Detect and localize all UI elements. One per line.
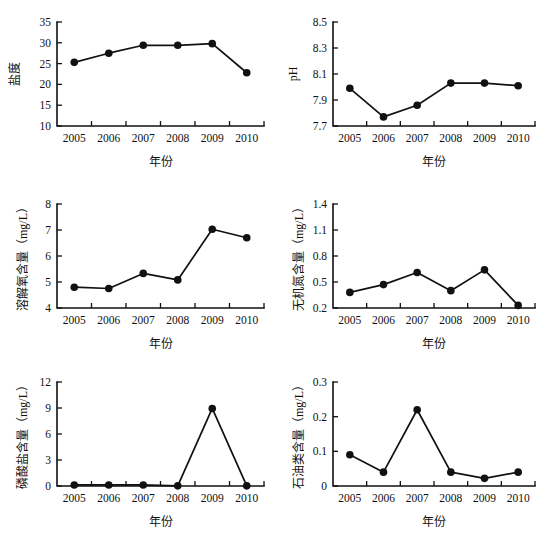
- y-tick-label: 8: [45, 198, 51, 210]
- x-tick-label-2009: 2009: [201, 314, 224, 326]
- x-tick-label-2010: 2010: [507, 492, 530, 504]
- chart-panel-dissolved-oxygen: 45678200520062007200820092010年份溶解氧含量（mg/…: [0, 178, 276, 358]
- x-tick-label-2005: 2005: [338, 314, 361, 326]
- data-markers-petroleum: [346, 406, 522, 482]
- y-tick-label: 35: [40, 16, 52, 28]
- y-tick-label: 7.9: [313, 94, 328, 106]
- y-tick-label: 9: [45, 402, 51, 414]
- data-point-2008: [174, 482, 182, 490]
- data-point-2008: [447, 79, 455, 87]
- data-point-2007: [139, 481, 147, 489]
- y-axis-title-inorganic-nitrogen: 无机氮含量（mg/L）: [291, 201, 306, 311]
- y-tick-label: 5: [45, 276, 51, 288]
- x-tick-label-2007: 2007: [132, 492, 155, 504]
- x-tick-label-2006: 2006: [97, 132, 120, 144]
- x-tick-label-2010: 2010: [235, 132, 258, 144]
- x-tick-label-2009: 2009: [473, 314, 496, 326]
- data-point-2007: [413, 269, 421, 277]
- y-axis-title-petroleum: 石油类含量（mg/L）: [291, 379, 306, 489]
- y-tick-label: 0.3: [313, 376, 328, 388]
- data-point-2010: [514, 302, 522, 310]
- data-point-2010: [514, 82, 522, 90]
- x-axis-title-petroleum: 年份: [422, 515, 446, 529]
- x-tick-label-2009: 2009: [473, 492, 496, 504]
- series-line-petroleum: [350, 410, 518, 479]
- x-tick-label-2006: 2006: [372, 314, 395, 326]
- x-tick-label-2005: 2005: [63, 492, 86, 504]
- y-axis-ticks-dissolved-oxygen: 45678: [45, 198, 62, 314]
- y-axis-title-dissolved-oxygen: 溶解氧含量（mg/L）: [15, 201, 30, 311]
- x-tick-label-2007: 2007: [132, 314, 155, 326]
- data-point-2005: [346, 451, 354, 459]
- y-tick-label: 12: [40, 376, 52, 388]
- series-line-inorganic-nitrogen: [350, 270, 518, 306]
- x-tick-label-2008: 2008: [166, 314, 189, 326]
- data-point-2006: [380, 468, 388, 476]
- data-point-2010: [243, 69, 251, 77]
- data-point-2005: [346, 289, 354, 297]
- x-axis-title-dissolved-oxygen: 年份: [149, 337, 173, 351]
- x-axis-ticks-dissolved-oxygen: 200520062007200820092010: [63, 303, 264, 326]
- data-point-2008: [174, 41, 182, 49]
- y-axis-ticks-inorganic-nitrogen: 0.20.50.81.11.4: [313, 198, 338, 314]
- x-axis-title-salinity: 年份: [149, 155, 173, 169]
- data-point-2007: [139, 41, 147, 49]
- y-tick-label: 0.2: [313, 302, 328, 314]
- chart-panel-inorganic-nitrogen: 0.20.50.81.11.4200520062007200820092010年…: [276, 178, 552, 358]
- series-line-salinity: [74, 44, 247, 73]
- data-point-2008: [174, 276, 182, 284]
- data-point-2008: [447, 287, 455, 295]
- y-tick-label: 4: [45, 302, 51, 314]
- data-point-2005: [70, 481, 78, 489]
- data-point-2009: [481, 79, 489, 87]
- data-point-2006: [380, 281, 388, 289]
- y-tick-label: 8.1: [313, 68, 328, 80]
- y-tick-label: 8.5: [313, 16, 328, 28]
- x-tick-label-2007: 2007: [406, 132, 429, 144]
- x-tick-label-2007: 2007: [406, 314, 429, 326]
- x-tick-label-2008: 2008: [439, 492, 462, 504]
- x-tick-label-2008: 2008: [439, 132, 462, 144]
- y-tick-label: 10: [40, 120, 52, 132]
- y-tick-label: 0.2: [313, 411, 328, 423]
- y-tick-label: 0.1: [313, 445, 328, 457]
- data-point-2010: [243, 234, 251, 242]
- y-tick-label: 0.5: [313, 276, 328, 288]
- chart-panel-petroleum: 00.10.20.3200520062007200820092010年份石油类含…: [276, 358, 552, 535]
- y-tick-label: 0: [321, 480, 327, 492]
- y-axis-title-salinity: 盐度: [7, 62, 22, 86]
- y-tick-label: 7.7: [313, 120, 328, 132]
- x-tick-label-2008: 2008: [166, 492, 189, 504]
- data-markers-dissolved-oxygen: [70, 225, 250, 292]
- x-axis-ticks-ph: 200520062007200820092010: [338, 121, 535, 144]
- chart-panel-salinity: 101520253035200520062007200820092010年份盐度: [0, 0, 276, 178]
- data-point-2009: [481, 475, 489, 483]
- data-markers-ph: [346, 79, 522, 120]
- data-point-2009: [208, 405, 216, 413]
- x-tick-label-2006: 2006: [97, 314, 120, 326]
- x-tick-label-2010: 2010: [235, 492, 258, 504]
- x-tick-label-2009: 2009: [201, 132, 224, 144]
- data-point-2007: [139, 270, 147, 278]
- x-axis-title-phosphate: 年份: [149, 515, 173, 529]
- figure-grid: 101520253035200520062007200820092010年份盐度…: [0, 0, 552, 535]
- y-tick-label: 3: [45, 454, 51, 466]
- data-point-2008: [447, 468, 455, 476]
- x-axis-ticks-inorganic-nitrogen: 200520062007200820092010: [338, 303, 535, 326]
- x-tick-label-2010: 2010: [507, 314, 530, 326]
- x-tick-label-2010: 2010: [507, 132, 530, 144]
- x-tick-label-2005: 2005: [338, 132, 361, 144]
- y-tick-label: 6: [45, 428, 51, 440]
- y-tick-label: 15: [40, 99, 52, 111]
- x-tick-label-2009: 2009: [473, 132, 496, 144]
- x-tick-label-2006: 2006: [97, 492, 120, 504]
- y-tick-label: 25: [40, 58, 52, 70]
- x-axis-ticks-petroleum: 200520062007200820092010: [338, 481, 535, 504]
- axis-spines-phosphate: [57, 382, 264, 486]
- x-tick-label-2005: 2005: [63, 314, 86, 326]
- axis-spines-dissolved-oxygen: [57, 204, 264, 308]
- y-tick-label: 8.3: [313, 42, 328, 54]
- x-tick-label-2010: 2010: [235, 314, 258, 326]
- y-tick-label: 1.1: [313, 224, 328, 236]
- data-point-2005: [70, 283, 78, 291]
